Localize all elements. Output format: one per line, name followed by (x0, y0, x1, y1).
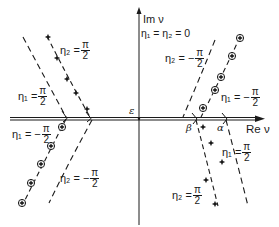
circled-cross-marker-icon (236, 34, 243, 41)
imaginary-axis-label: Im ν (143, 14, 164, 25)
circled-cross-marker-icon (211, 86, 218, 93)
alpha-label: α (217, 123, 224, 133)
label-lower-left-dashed: η₂ = −π2 (60, 168, 99, 189)
star-marker-icon (64, 76, 70, 82)
label-lower-right-dashed: η₁ =π2 (222, 142, 251, 163)
imaginary-axis (137, 7, 142, 225)
label-upper-left-stars: η₂ =π2 (60, 40, 90, 61)
circled-cross-marker-icon (228, 52, 235, 59)
label-upper-left-dashed: η₁ =π2 (18, 86, 47, 107)
label-upper-right-circles: η₁ = −π2 (221, 87, 260, 108)
label-lower-right-stars: η₂ =π2 (172, 185, 202, 206)
star-marker-icon (208, 140, 214, 146)
axis-arrow-icon (137, 7, 142, 14)
curve-lower-left-dashed (49, 120, 92, 203)
circled-cross-marker-icon (18, 199, 25, 206)
star-marker-icon (212, 201, 218, 207)
circled-cross-marker-icon (217, 73, 224, 80)
star-marker-icon (73, 90, 79, 96)
origin-condition-label: η₁ = η₂ = 0 (141, 28, 190, 39)
circled-cross-marker-icon (199, 104, 206, 111)
real-axis-label: Re ν (246, 124, 270, 136)
circled-cross-marker-icon (58, 123, 65, 130)
label-lower-left-circles: η₁ = −π2 (12, 124, 51, 145)
epsilon-point (138, 118, 140, 120)
label-upper-right-dashed: η₂ = −π2 (165, 48, 204, 69)
circled-cross-marker-icon (37, 160, 44, 167)
circled-cross-marker-icon (27, 179, 34, 186)
star-marker-icon (45, 34, 51, 40)
beta-label: β (186, 123, 192, 133)
epsilon-label: ε (129, 106, 134, 116)
star-marker-icon (203, 177, 209, 183)
axis-arrow-icon (255, 116, 265, 123)
star-marker-icon (200, 124, 206, 130)
complex-plane-diagram (0, 0, 279, 227)
